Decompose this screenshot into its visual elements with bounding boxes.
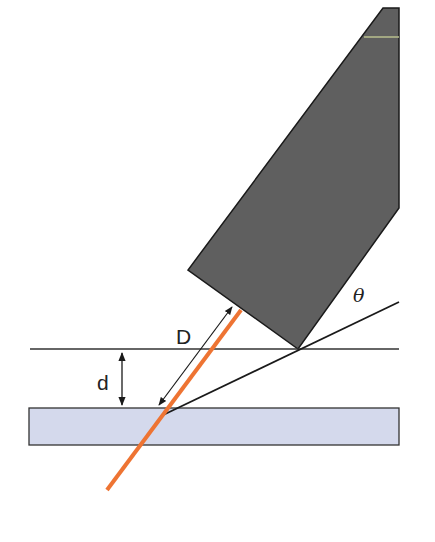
beam bbox=[107, 310, 241, 490]
label-theta: θ bbox=[353, 284, 365, 306]
D-arrow bbox=[159, 307, 232, 405]
label-D: D bbox=[176, 325, 191, 348]
probe-body bbox=[188, 8, 399, 349]
label-d: d bbox=[97, 371, 109, 394]
sample-plate bbox=[29, 408, 399, 445]
diagram-canvas: D d θ bbox=[0, 0, 435, 542]
